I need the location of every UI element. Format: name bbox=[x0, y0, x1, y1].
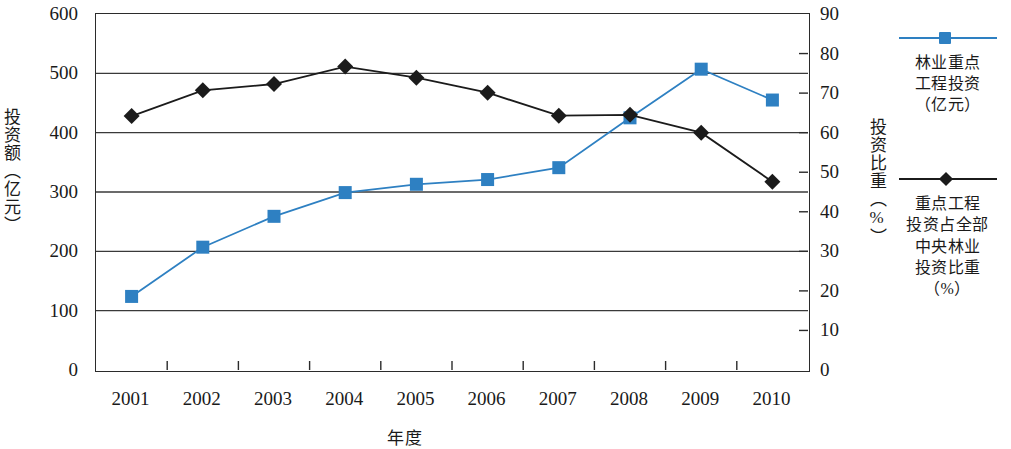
chart-legend: 林业重点工程投资（亿元） 重点工程投资占全部中央林业投资比重（%） bbox=[884, 30, 1011, 309]
legend-label-line: 工程投资 bbox=[884, 73, 1011, 94]
y-axis-right-tick-label: 10 bbox=[820, 320, 870, 339]
x-axis-tick-label: 2004 bbox=[309, 389, 379, 408]
legend-label-line: 重点工程 bbox=[884, 193, 1011, 214]
data-point-marker bbox=[124, 108, 140, 124]
y-axis-left-tick-label: 500 bbox=[22, 63, 78, 82]
x-axis-tick-label: 2005 bbox=[380, 389, 450, 408]
y-axis-right-tick-label: 0 bbox=[820, 360, 870, 379]
data-point-marker bbox=[410, 178, 423, 191]
x-axis-tick-label: 2009 bbox=[665, 389, 735, 408]
data-point-marker bbox=[693, 125, 709, 141]
data-point-marker bbox=[196, 241, 209, 254]
x-axis-tick-label: 2001 bbox=[96, 389, 166, 408]
y-axis-left-tick-label: 200 bbox=[22, 241, 78, 260]
y-axis-left-title: 投资额（亿元） bbox=[2, 108, 19, 298]
data-point-marker bbox=[195, 82, 211, 98]
y-axis-left-tick-label: 400 bbox=[22, 123, 78, 142]
y-axis-left-tick-label: 300 bbox=[22, 182, 78, 201]
data-point-marker bbox=[125, 290, 138, 303]
diamond-marker-icon bbox=[938, 172, 952, 186]
y-axis-right-tick-label: 30 bbox=[820, 241, 870, 260]
plot-svg bbox=[96, 14, 808, 370]
legend-entry-series1: 林业重点工程投资（亿元） bbox=[884, 30, 1011, 115]
data-point-marker bbox=[339, 186, 352, 199]
y-axis-left-tick-label: 600 bbox=[22, 4, 78, 23]
x-axis-tick-label: 2008 bbox=[594, 389, 664, 408]
legend-key-series1 bbox=[893, 30, 1003, 46]
legend-entry-series2: 重点工程投资占全部中央林业投资比重（%） bbox=[884, 171, 1011, 299]
legend-label-line: （%） bbox=[884, 278, 1011, 299]
y-axis-right-tick-label: 40 bbox=[820, 202, 870, 221]
legend-label-series1: 林业重点工程投资（亿元） bbox=[884, 52, 1011, 115]
chart-figure: 投资额（亿元） 0100200300400500600 200120022003… bbox=[0, 0, 1011, 449]
data-point-marker bbox=[764, 174, 780, 190]
legend-label-line: 投资比重 bbox=[884, 257, 1011, 278]
legend-label-line: 投资占全部 bbox=[884, 214, 1011, 235]
y-axis-left-tick-label: 0 bbox=[22, 360, 78, 379]
series-line-1 bbox=[132, 69, 773, 296]
y-axis-right-tick-label: 80 bbox=[820, 44, 870, 63]
y-axis-right-ticks: 0102030405060708090 bbox=[820, 0, 870, 449]
y-axis-right-tick-label: 70 bbox=[820, 83, 870, 102]
data-point-marker bbox=[480, 85, 496, 101]
legend-label-line: （亿元） bbox=[884, 94, 1011, 115]
x-axis-tick-label: 2010 bbox=[736, 389, 806, 408]
y-axis-left-ticks: 0100200300400500600 bbox=[22, 0, 78, 449]
square-marker-icon bbox=[939, 32, 951, 44]
data-point-marker bbox=[337, 59, 353, 75]
x-axis-tick-label: 2006 bbox=[452, 389, 522, 408]
series-line-2 bbox=[132, 67, 773, 182]
x-axis-tick-label: 2002 bbox=[167, 389, 237, 408]
data-point-marker bbox=[695, 63, 708, 76]
y-axis-right-tick-label: 90 bbox=[820, 4, 870, 23]
x-axis-tick-label: 2007 bbox=[523, 389, 593, 408]
data-point-marker bbox=[481, 173, 494, 186]
data-point-marker bbox=[766, 94, 779, 107]
legend-label-line: 林业重点 bbox=[884, 52, 1011, 73]
plot-area bbox=[95, 13, 810, 372]
legend-label-line: 中央林业 bbox=[884, 236, 1011, 257]
data-point-marker bbox=[266, 76, 282, 92]
y-axis-right-tick-label: 60 bbox=[820, 123, 870, 142]
legend-key-series2 bbox=[893, 171, 1003, 187]
data-point-marker bbox=[552, 161, 565, 174]
data-point-marker bbox=[551, 108, 567, 124]
data-point-marker bbox=[408, 70, 424, 86]
x-axis-tick-label: 2003 bbox=[238, 389, 308, 408]
y-axis-left-tick-label: 100 bbox=[22, 301, 78, 320]
x-axis-title: 年度 bbox=[0, 424, 810, 449]
y-axis-right-tick-label: 20 bbox=[820, 281, 870, 300]
data-point-marker bbox=[268, 210, 281, 223]
legend-label-series2: 重点工程投资占全部中央林业投资比重（%） bbox=[884, 193, 1011, 299]
y-axis-right-title: 投资比重（%） bbox=[868, 118, 885, 293]
y-axis-right-tick-label: 50 bbox=[820, 162, 870, 181]
